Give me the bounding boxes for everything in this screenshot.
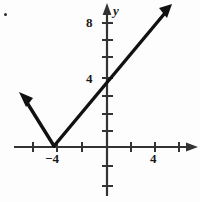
graph-figure: y 8 4 −4 4 [0, 0, 200, 202]
y-axis-label: y [113, 4, 119, 17]
x-tick-label-4: 4 [150, 152, 157, 165]
coordinate-plane [0, 0, 200, 202]
y-tick-label-8: 8 [86, 16, 93, 29]
curve-left-branch [26, 101, 54, 146]
x-tick-label-neg4: −4 [45, 152, 59, 165]
y-axis-arrowhead-icon [103, 3, 112, 15]
curve-right-branch [54, 13, 165, 146]
x-axis-arrowhead-icon [186, 143, 198, 152]
curve-left-arrowhead-icon [19, 92, 33, 107]
y-tick-label-4: 4 [86, 72, 93, 85]
